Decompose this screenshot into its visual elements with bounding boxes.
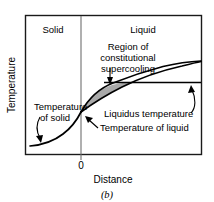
- x-axis-label: Distance: [94, 174, 133, 185]
- constitutional-supercooling-figure: Solid Liquid Region of constitutional su…: [0, 0, 214, 202]
- supercooling-label-line3: supercooling: [101, 63, 155, 74]
- liquidus-temperature-arrow-head: [188, 85, 195, 93]
- temperature-of-solid-label-line1: Temperature: [34, 101, 87, 112]
- liquidus-temperature-label: Liquidus temperature: [104, 108, 193, 119]
- zone-label-liquid: Liquid: [130, 24, 155, 35]
- x-axis-origin-label: 0: [78, 160, 84, 171]
- temperature-of-liquid-leader: [89, 120, 98, 128]
- supercooling-label-line1: Region of: [108, 41, 149, 52]
- temperature-of-liquid-label: Temperature of liquid: [100, 122, 189, 133]
- temperature-of-solid-label-line2: of solid: [40, 112, 70, 123]
- y-axis-label: Temperature: [6, 56, 17, 113]
- figure-caption: (b): [101, 189, 114, 201]
- temperature-of-solid-arrow-head: [36, 135, 43, 143]
- supercooling-label-line2: constitutional: [100, 52, 155, 63]
- zone-label-solid: Solid: [42, 24, 63, 35]
